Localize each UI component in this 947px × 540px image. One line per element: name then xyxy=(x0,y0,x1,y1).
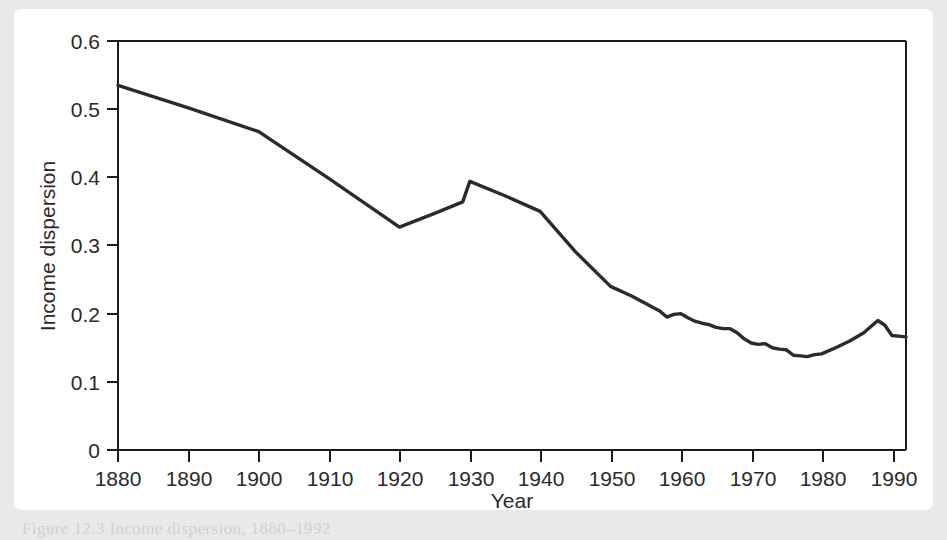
y-axis-tick-labels: 0.6 0.5 0.4 0.3 0.2 0.1 0 xyxy=(71,30,101,462)
y-tick-label: 0.3 xyxy=(71,234,100,257)
x-tick-label: 1910 xyxy=(307,467,354,490)
x-tick-label: 1990 xyxy=(871,467,918,490)
figure-card: 0.6 0.5 0.4 0.3 0.2 0.1 0 xyxy=(14,9,933,510)
data-line-income-dispersion xyxy=(118,85,906,356)
income-dispersion-line-chart: 0.6 0.5 0.4 0.3 0.2 0.1 0 xyxy=(14,9,933,510)
x-axis-title: Year xyxy=(491,489,533,510)
x-tick-label: 1960 xyxy=(659,467,706,490)
scanned-page: 0.6 0.5 0.4 0.3 0.2 0.1 0 xyxy=(0,0,947,540)
x-tick-label: 1920 xyxy=(377,467,424,490)
y-tick-label: 0.6 xyxy=(71,30,100,53)
x-tick-label: 1880 xyxy=(95,467,142,490)
figure-caption: Figure 12.3 Income dispersion, 1880–1992 xyxy=(22,519,922,540)
plot-frame xyxy=(118,41,906,450)
y-tick-label: 0 xyxy=(88,439,100,462)
x-tick-label: 1890 xyxy=(166,467,213,490)
x-tick-label: 1940 xyxy=(518,467,565,490)
y-tick-label: 0.2 xyxy=(71,303,100,326)
x-axis-tick-labels: 1880 1890 1900 1910 1920 1930 1940 1950 … xyxy=(95,467,918,490)
chart-plot-area: 0.6 0.5 0.4 0.3 0.2 0.1 0 xyxy=(14,9,933,510)
y-axis-ticks xyxy=(107,41,118,450)
y-axis-title: Income dispersion xyxy=(36,161,59,331)
y-tick-label: 0.4 xyxy=(71,166,101,189)
x-tick-label: 1980 xyxy=(800,467,847,490)
x-axis-ticks xyxy=(118,450,894,462)
x-tick-label: 1970 xyxy=(730,467,777,490)
x-tick-label: 1950 xyxy=(589,467,636,490)
y-tick-label: 0.1 xyxy=(71,371,100,394)
y-tick-label: 0.5 xyxy=(71,98,100,121)
x-tick-label: 1930 xyxy=(448,467,495,490)
x-tick-label: 1900 xyxy=(236,467,283,490)
